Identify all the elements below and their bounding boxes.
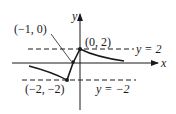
curve-right	[80, 49, 124, 61]
x-axis-label: x	[161, 57, 166, 69]
point-label-0-2: (0, 2)	[85, 36, 111, 48]
point-0-2	[78, 47, 82, 51]
curve-segment	[67, 49, 80, 80]
asymptote-label-y-2: y = 2	[136, 43, 161, 55]
y-axis-label: y	[72, 10, 77, 22]
point-label-neg2-neg2: (−2, −2)	[25, 83, 65, 95]
leader-line	[51, 34, 71, 61]
point-neg1-0	[71, 60, 75, 64]
asymptote-label-y-neg2: y = −2	[96, 83, 130, 95]
point-label-neg1-0: (−1, 0)	[14, 23, 47, 35]
point-neg2-neg2	[65, 78, 69, 82]
graph-canvas	[0, 0, 176, 114]
curve-left	[29, 66, 67, 80]
